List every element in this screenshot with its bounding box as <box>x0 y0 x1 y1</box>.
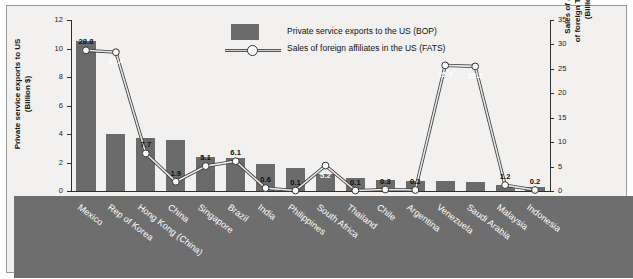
line-data-label: 25.5 <box>468 71 483 80</box>
left-axis-tick-label: 8 <box>41 72 63 81</box>
line-data-label: 0.1 <box>350 178 361 187</box>
line-data-label: 1.2 <box>500 172 511 181</box>
line-marker <box>322 162 329 169</box>
baseline-axis <box>71 191 551 192</box>
line-data-label: 7.7 <box>140 140 151 149</box>
right-axis-tick-label: 0 <box>558 186 580 195</box>
line-marker <box>113 49 120 56</box>
line-marker <box>382 186 389 193</box>
line-data-label: 6.1 <box>230 148 241 157</box>
line-data-label: 1.9 <box>170 169 181 178</box>
line-marker <box>532 187 539 194</box>
legend-bar-label: Private service exports to the US (BOP) <box>287 26 437 36</box>
legend-line-marker-icon <box>247 45 258 56</box>
legend-item-line: Sales of foreign affiliates in the US (F… <box>225 41 525 58</box>
left-axis-title: Private service exports to US (Billion $… <box>13 24 33 164</box>
legend-bar-swatch <box>231 24 259 40</box>
line-marker <box>472 63 479 70</box>
left-axis-tick-label: 10 <box>41 44 63 53</box>
right-axis-tick <box>550 142 554 143</box>
right-axis-tick <box>550 44 554 45</box>
line-data-label: 0.6 <box>260 175 271 184</box>
chart-screenshot: Private service exports to US (Billion $… <box>0 0 633 279</box>
line-data-label: 0.1 <box>290 178 301 187</box>
right-axis-tick <box>550 93 554 94</box>
legend-item-bar: Private service exports to the US (BOP) <box>225 24 525 41</box>
left-axis-tick-label: 0 <box>41 186 63 195</box>
line-marker <box>202 163 209 170</box>
chart-legend: Private service exports to the US (BOP) … <box>225 24 525 58</box>
line-marker <box>232 158 239 165</box>
legend-line-label: Sales of foreign affiliates in the US (F… <box>287 43 445 53</box>
right-axis-tick-label: 15 <box>558 113 580 122</box>
line-data-label: 5.2 <box>320 171 331 180</box>
line-marker <box>142 150 149 157</box>
line-data-label: 28.4 <box>108 57 123 66</box>
right-axis-tick-label: 30 <box>558 39 580 48</box>
left-axis-tick-label: 2 <box>41 158 63 167</box>
right-axis-tick-label: 10 <box>558 137 580 146</box>
line-data-label: 5.1 <box>200 153 211 162</box>
right-axis-tick-label: 20 <box>558 88 580 97</box>
right-axis-tick-label: 25 <box>558 64 580 73</box>
chart-frame: Private service exports to US (Billion $… <box>6 5 627 273</box>
right-axis-tick <box>550 167 554 168</box>
line-marker <box>442 62 449 69</box>
left-axis-tick-label: 6 <box>41 101 63 110</box>
line-data-label: 28.8 <box>78 37 93 46</box>
line-marker <box>292 187 299 194</box>
right-axis-tick <box>550 20 554 21</box>
line-data-label: 0.2 <box>410 177 421 186</box>
line-marker <box>172 178 179 185</box>
left-axis-tick-label: 4 <box>41 129 63 138</box>
left-axis-tick <box>67 191 71 192</box>
line-marker <box>352 187 359 194</box>
right-axis-tick <box>550 69 554 70</box>
line-marker <box>83 47 90 54</box>
right-axis-tick <box>550 191 554 192</box>
left-axis-tick-label: 12 <box>41 15 63 24</box>
right-axis-tick-label: 35 <box>558 15 580 24</box>
right-axis-tick <box>550 118 554 119</box>
line-data-label: 0.2 <box>530 177 541 186</box>
line-marker <box>262 185 269 192</box>
right-axis-tick-label: 5 <box>558 162 580 171</box>
line-marker <box>502 182 509 189</box>
line-data-label: 0.3 <box>380 177 391 186</box>
line-marker <box>412 187 419 194</box>
line-data-label: 25.7 <box>438 70 453 79</box>
